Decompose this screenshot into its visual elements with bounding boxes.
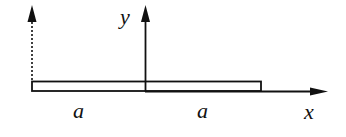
x-axis-arrow-icon	[310, 88, 328, 96]
dashed-arrow-head-icon	[28, 5, 37, 22]
right-segment-label: a	[197, 98, 208, 123]
y-axis-arrow-icon	[141, 5, 150, 22]
x-axis	[145, 88, 328, 96]
beam-rectangle	[32, 82, 261, 92]
diagram-canvas: y x a a	[0, 0, 346, 137]
diagram-svg: y x a a	[0, 0, 346, 137]
left-segment-label: a	[73, 98, 84, 123]
y-axis	[141, 5, 150, 92]
dashed-arrow	[28, 5, 37, 80]
y-axis-label: y	[118, 4, 130, 29]
x-axis-label: x	[303, 99, 314, 124]
